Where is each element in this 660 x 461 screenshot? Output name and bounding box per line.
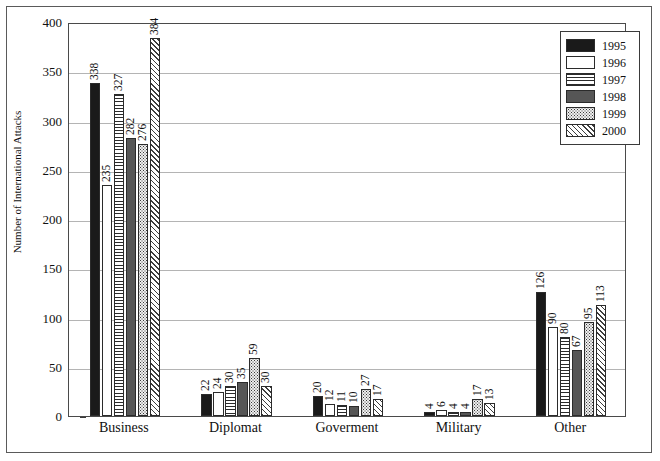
bar: 4 bbox=[460, 412, 471, 416]
bar-value-label: 327 bbox=[111, 74, 123, 91]
legend-swatch bbox=[566, 39, 595, 52]
legend-swatch bbox=[566, 107, 595, 120]
bar-value-label: 10 bbox=[347, 392, 359, 404]
legend-item[interactable]: 1997 bbox=[566, 71, 635, 88]
legend-swatch bbox=[566, 56, 595, 69]
legend-label: 1999 bbox=[602, 108, 626, 120]
legend-label: 1998 bbox=[602, 91, 626, 103]
bar-value-label: 90 bbox=[546, 313, 558, 325]
x-axis-label: Diplomat bbox=[209, 420, 262, 436]
bar-value-label: 384 bbox=[147, 18, 159, 35]
bar-value-label: 59 bbox=[247, 343, 259, 355]
legend-swatch bbox=[566, 90, 595, 103]
y-axis-title: Number of International Attacks bbox=[11, 17, 23, 347]
x-axis-label: Military bbox=[436, 420, 482, 436]
bar-value-label: 4 bbox=[458, 403, 470, 409]
bar-value-label: 80 bbox=[558, 323, 570, 335]
bar-value-label: 35 bbox=[235, 367, 247, 379]
bar: 59 bbox=[249, 358, 260, 416]
bar-value-label: 4 bbox=[446, 403, 458, 409]
legend-item[interactable]: 2000 bbox=[566, 122, 635, 139]
bar: 90 bbox=[548, 327, 559, 416]
x-axis-label: Other bbox=[554, 420, 586, 436]
bar: 95 bbox=[584, 322, 595, 416]
bar: 384 bbox=[150, 38, 161, 416]
bar-value-label: 22 bbox=[199, 380, 211, 392]
y-tick-label: 250 bbox=[18, 163, 62, 179]
bar: 126 bbox=[536, 292, 547, 416]
bar: 24 bbox=[213, 392, 224, 416]
y-tick-label: 100 bbox=[18, 311, 62, 327]
bar-value-label: 27 bbox=[359, 375, 371, 387]
bar-value-label: 6 bbox=[434, 401, 446, 407]
legend-swatch bbox=[566, 73, 595, 86]
legend-item[interactable]: 1999 bbox=[566, 105, 635, 122]
bar: 276 bbox=[138, 144, 149, 416]
legend-item[interactable]: 1995 bbox=[566, 37, 635, 54]
bar: 67 bbox=[572, 350, 583, 416]
y-tick-label: 200 bbox=[18, 212, 62, 228]
bar: 22 bbox=[201, 394, 212, 416]
bar-value-label: 30 bbox=[223, 372, 235, 384]
bars-layer: 3382353272822763842224303559302012111027… bbox=[69, 24, 625, 416]
bar-value-label: 24 bbox=[211, 378, 223, 390]
legend-label: 1996 bbox=[602, 57, 626, 69]
legend-item[interactable]: 1996 bbox=[566, 54, 635, 71]
x-axis-label: Goverment bbox=[316, 420, 379, 436]
bar-value-label: 30 bbox=[259, 372, 271, 384]
bar: 35 bbox=[237, 382, 248, 416]
bar: 113 bbox=[596, 305, 607, 416]
plot-area: 3382353272822763842224303559302012111027… bbox=[68, 23, 626, 417]
bar: 12 bbox=[325, 404, 336, 416]
y-tick-label: 50 bbox=[18, 360, 62, 376]
y-axis-ticks: 050100150200250300350400 bbox=[18, 23, 62, 417]
bar-value-label: 235 bbox=[99, 164, 111, 181]
x-axis-labels: BusinessDiplomatGovermentMilitaryOther bbox=[68, 420, 626, 444]
chart-figure: 050100150200250300350400 Number of Inter… bbox=[0, 0, 660, 461]
bar: 4 bbox=[448, 412, 459, 416]
legend: 199519961997199819992000 bbox=[560, 31, 640, 145]
bar: 6 bbox=[436, 410, 447, 416]
bar: 17 bbox=[472, 399, 483, 416]
bar: 235 bbox=[102, 185, 113, 416]
y-tick-label: 0 bbox=[18, 409, 62, 425]
legend-label: 2000 bbox=[602, 125, 626, 137]
bar-value-label: 4 bbox=[422, 403, 434, 409]
y-tick-mark bbox=[80, 417, 86, 418]
legend-swatch bbox=[566, 124, 595, 137]
legend-label: 1995 bbox=[602, 40, 626, 52]
y-tick-label: 150 bbox=[18, 261, 62, 277]
bar: 17 bbox=[373, 399, 384, 416]
bar-value-label: 17 bbox=[470, 385, 482, 397]
bar-value-label: 11 bbox=[335, 391, 347, 402]
bar: 13 bbox=[484, 403, 495, 416]
bar-group: 201211102717 bbox=[313, 24, 384, 416]
bar-value-label: 67 bbox=[570, 336, 582, 348]
legend-label: 1997 bbox=[602, 74, 626, 86]
bar: 80 bbox=[560, 337, 571, 416]
bar: 30 bbox=[225, 386, 236, 416]
bar-value-label: 276 bbox=[135, 124, 147, 141]
bar-group: 46441713 bbox=[424, 24, 495, 416]
bar: 30 bbox=[261, 386, 272, 416]
y-tick-label: 300 bbox=[18, 114, 62, 130]
bar-value-label: 95 bbox=[582, 308, 594, 320]
bar-value-label: 12 bbox=[323, 390, 335, 402]
bar: 11 bbox=[337, 405, 348, 416]
bar-group: 338235327282276384 bbox=[90, 24, 161, 416]
bar-group: 222430355930 bbox=[201, 24, 272, 416]
legend-item[interactable]: 1998 bbox=[566, 88, 635, 105]
bar: 10 bbox=[349, 406, 360, 416]
bar: 4 bbox=[424, 412, 435, 416]
bar-value-label: 282 bbox=[123, 118, 135, 135]
bar-value-label: 338 bbox=[87, 63, 99, 80]
bar-value-label: 126 bbox=[534, 272, 546, 289]
bar-value-label: 17 bbox=[371, 385, 383, 397]
bar: 327 bbox=[114, 94, 125, 416]
bar: 282 bbox=[126, 138, 137, 416]
y-tick-label: 400 bbox=[18, 15, 62, 31]
x-axis-label: Business bbox=[99, 420, 149, 436]
bar-value-label: 113 bbox=[594, 285, 606, 302]
bar: 338 bbox=[90, 83, 101, 416]
bar-value-label: 20 bbox=[311, 382, 323, 394]
